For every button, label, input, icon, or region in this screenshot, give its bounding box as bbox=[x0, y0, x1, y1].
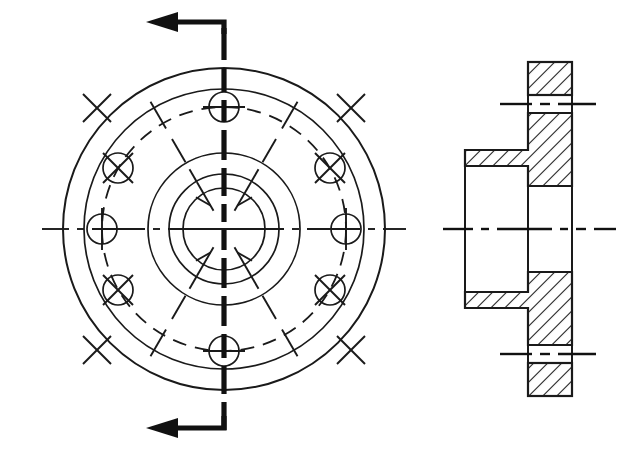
cut-arrow-top bbox=[146, 12, 224, 34]
bolt-hole-upper-left bbox=[103, 153, 133, 183]
flange-drawing bbox=[0, 0, 637, 455]
section-view bbox=[443, 62, 616, 396]
cut-arrow-bottom bbox=[146, 416, 224, 438]
section-flange-lower-block bbox=[528, 363, 572, 396]
bolt-hole-lower-right bbox=[315, 275, 345, 305]
section-flange-upper-block bbox=[528, 62, 572, 95]
bolt-hole-lower-left bbox=[103, 275, 133, 305]
technical-drawing-canvas bbox=[0, 0, 637, 455]
front-view bbox=[42, 12, 406, 438]
bolt-hole-upper-right bbox=[315, 153, 345, 183]
